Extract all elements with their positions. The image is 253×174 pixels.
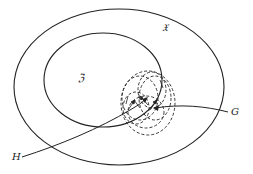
dashed-neighborhoods: [121, 71, 175, 135]
arrow-g-line: [155, 106, 228, 112]
outer-set-label: 𝔛: [162, 23, 168, 33]
inner-set-label: ℨ: [78, 73, 84, 83]
inner-set-ellipse: [44, 33, 162, 127]
outer-set-ellipse: [14, 9, 224, 165]
set-diagram: [0, 0, 253, 174]
arrow-g-head: [153, 105, 159, 111]
arrow-g-label: G: [231, 107, 239, 117]
arrow-h-line: [22, 98, 147, 157]
arrow-h-label: H: [12, 152, 21, 162]
